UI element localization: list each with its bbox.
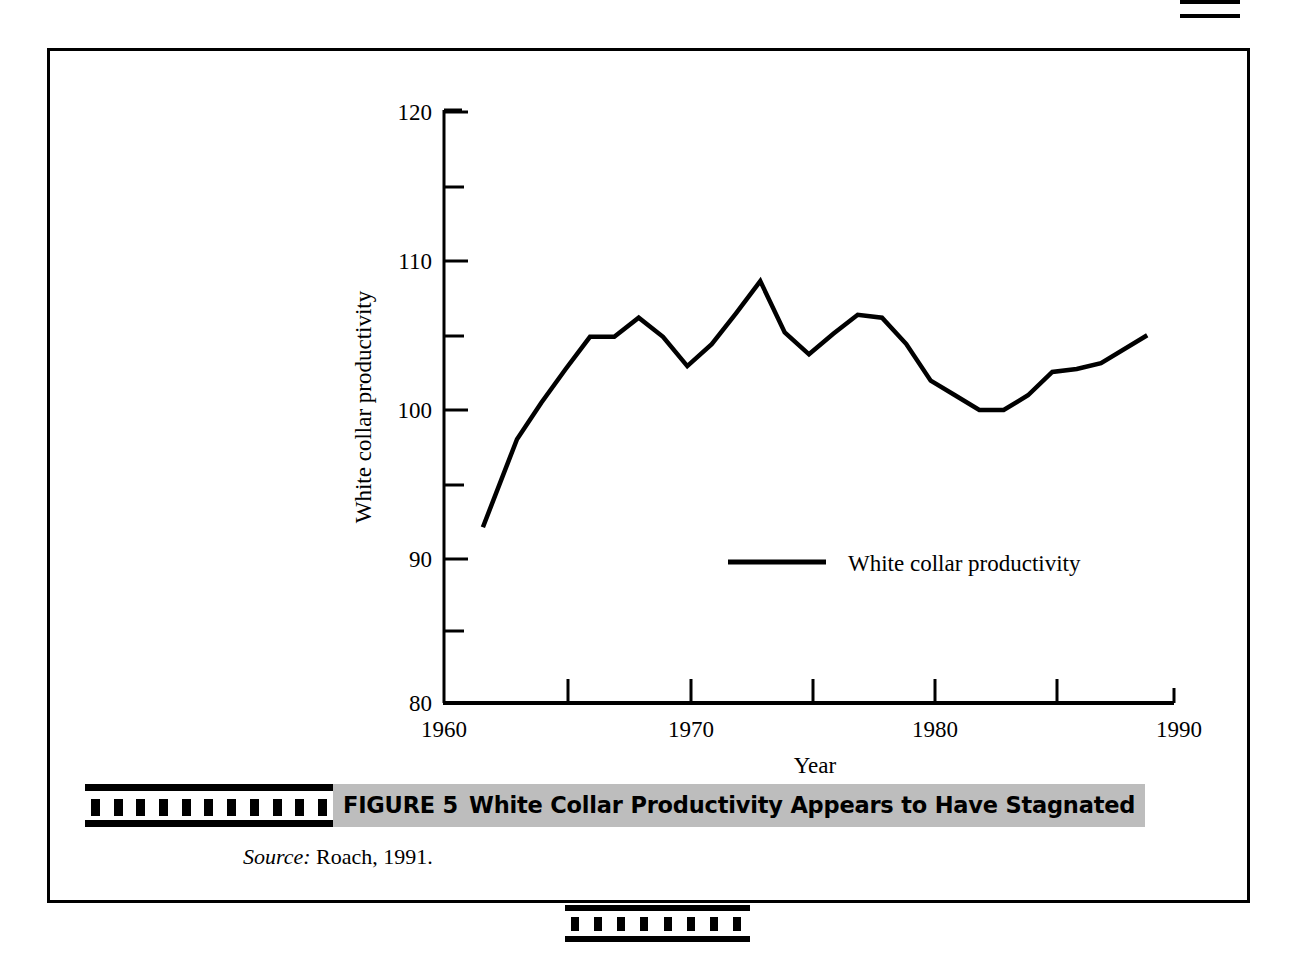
legend: White collar productivity [728, 551, 1081, 576]
x-tick-label-1990: 1990 [1156, 717, 1202, 742]
figure-source: Source: Roach, 1991. [243, 843, 433, 871]
x-tick-label-1970: 1970 [668, 717, 714, 742]
figure-number: FIGURE 5 [343, 792, 458, 818]
line-chart: 120 110 100 90 80 1960 1970 1980 1990 Ye… [0, 0, 1302, 780]
figure-caption-title: White Collar Productivity Appears to Hav… [469, 792, 1135, 818]
y-axis-title: White collar productivity [351, 290, 376, 523]
y-tick-label-120: 120 [398, 100, 433, 125]
ladder-rungs [91, 799, 327, 812]
caption-ladder-ornament [85, 784, 333, 827]
y-axis-major-ticks [444, 112, 468, 703]
legend-label-white-collar-productivity: White collar productivity [848, 551, 1081, 576]
y-tick-label-100: 100 [398, 398, 433, 423]
chart-area: 120 110 100 90 80 1960 1970 1980 1990 Ye… [0, 0, 1302, 780]
bottom-registration-mark [565, 905, 750, 942]
y-tick-label-80: 80 [409, 691, 432, 716]
figure-page: 120 110 100 90 80 1960 1970 1980 1990 Ye… [0, 0, 1302, 964]
source-text: Roach, 1991. [316, 844, 433, 869]
x-tick-label-1980: 1980 [912, 717, 958, 742]
series-line-white-collar-productivity [483, 281, 1147, 527]
figure-caption-band: FIGURE 5White Collar Productivity Appear… [85, 784, 1145, 827]
source-label: Source: [243, 844, 311, 869]
figure-caption-text: FIGURE 5White Collar Productivity Appear… [343, 791, 1133, 820]
axes [443, 110, 1174, 703]
x-axis-ticks [568, 679, 1057, 703]
y-tick-label-90: 90 [409, 547, 432, 572]
x-tick-label-1960: 1960 [421, 717, 467, 742]
y-tick-label-110: 110 [398, 249, 432, 274]
x-axis-title: Year [794, 753, 837, 778]
bottom-ladder-rungs [571, 917, 741, 929]
